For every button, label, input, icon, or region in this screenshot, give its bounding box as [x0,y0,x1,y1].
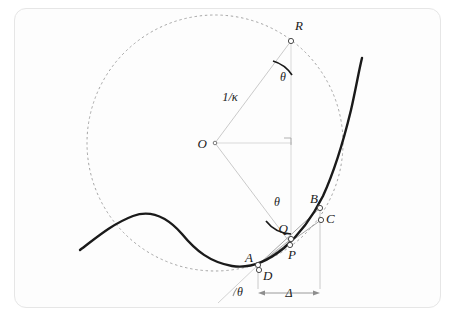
delta-arrow-left [258,291,265,296]
figure-root: R O 1/κ θ θ θ Q P A B C D Δ [0,0,455,316]
point-marker-A [255,262,260,267]
delta-arrow-right [313,291,320,296]
label-theta-middle: θ [274,195,280,209]
label-delta: Δ [284,286,292,300]
label-A: A [244,250,253,265]
label-O: O [198,136,208,151]
point-marker-B [317,205,322,210]
point-marker-R [288,38,293,43]
label-Q: Q [279,221,289,236]
label-radius-curvature: 1/κ [222,90,239,104]
label-R: R [294,18,303,33]
point-marker-O [213,141,217,145]
right-angle-marker [284,138,291,145]
diagram-canvas: R O 1/κ θ θ θ Q P A B C D Δ [0,0,455,316]
label-theta-bottom: θ [237,285,243,299]
label-theta-top: θ [280,70,286,84]
label-D: D [262,268,273,283]
label-B: B [310,191,318,206]
point-marker-C [318,217,323,222]
point-marker-D [256,267,261,272]
label-P: P [287,247,296,262]
label-C: C [326,211,335,226]
point-marker-Q [288,236,293,241]
